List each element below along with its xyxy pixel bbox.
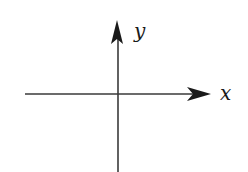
y-axis-arrowhead-icon bbox=[111, 20, 123, 44]
y-axis-label: y bbox=[133, 19, 146, 43]
y-axis: y bbox=[111, 19, 146, 172]
x-axis-label: x bbox=[220, 81, 231, 105]
x-axis: x bbox=[25, 81, 231, 105]
coordinate-axes-diagram: x y bbox=[0, 0, 248, 172]
